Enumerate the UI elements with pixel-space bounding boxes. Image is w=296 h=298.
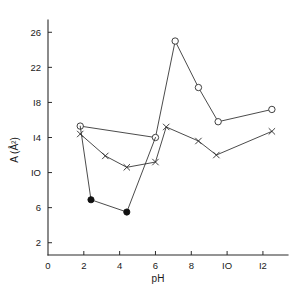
y-tick-label: I8	[33, 97, 41, 108]
y-tick-label: 2	[36, 237, 41, 248]
series-cross-series	[77, 124, 275, 171]
x-tick-label: I2	[259, 260, 267, 271]
series-polyline	[80, 127, 272, 167]
y-tick-label: 6	[36, 202, 41, 213]
data-point-filled-circle	[88, 197, 94, 203]
y-axis-ticks: 26IOI4I82226	[30, 27, 52, 248]
data-point-open-circle	[172, 38, 178, 44]
y-tick-label: IO	[31, 167, 41, 178]
series-open-circle-series	[77, 38, 275, 141]
x-axis-ticks: 02468IOI2	[45, 251, 267, 271]
x-axis-title: pH	[152, 273, 165, 284]
series-polyline	[80, 41, 272, 137]
data-point-open-circle	[269, 106, 275, 112]
chart-figure: 02468IOI2 26IOI4I82226 pH A (Å²)	[0, 0, 296, 298]
x-tick-label: 8	[189, 260, 194, 271]
y-tick-label: I4	[33, 132, 41, 143]
y-tick-label: 26	[30, 27, 41, 38]
x-tick-label: 2	[81, 260, 86, 271]
x-tick-label: IO	[222, 260, 232, 271]
data-point-open-circle	[195, 84, 201, 90]
series-filled-circle-series	[80, 126, 155, 215]
x-tick-label: 0	[45, 260, 50, 271]
data-series	[77, 38, 275, 215]
x-tick-label: 4	[117, 260, 122, 271]
x-tick-label: 6	[153, 260, 158, 271]
data-point-open-circle	[215, 119, 221, 125]
y-tick-label: 22	[30, 62, 41, 73]
plot-canvas: 02468IOI2 26IOI4I82226 pH A (Å²)	[0, 0, 296, 298]
data-point-filled-circle	[124, 209, 130, 215]
y-axis-title: A (Å²)	[8, 137, 20, 163]
